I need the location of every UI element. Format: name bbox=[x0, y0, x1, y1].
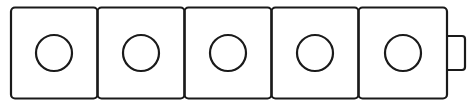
cell-3 bbox=[185, 8, 272, 99]
cell-4 bbox=[272, 8, 359, 99]
end-tab bbox=[447, 36, 465, 70]
cell-5 bbox=[359, 8, 448, 99]
cell-4-circle bbox=[297, 35, 333, 71]
cell-1-circle bbox=[36, 35, 72, 71]
cell-2 bbox=[98, 8, 185, 99]
cell-3-circle bbox=[210, 35, 246, 71]
cell-strip-diagram bbox=[0, 0, 476, 102]
cell-2-circle bbox=[123, 35, 159, 71]
cell-5-circle bbox=[385, 35, 421, 71]
cell-1 bbox=[11, 8, 98, 99]
